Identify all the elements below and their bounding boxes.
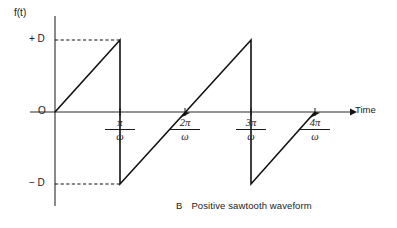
negative-amplitude-label: − D bbox=[29, 178, 45, 188]
tick-label-denominator: ω bbox=[170, 130, 200, 143]
origin-label: O bbox=[38, 106, 46, 116]
y-axis-label: f(t) bbox=[14, 8, 26, 18]
figure-caption: BPositive sawtooth waveform bbox=[176, 200, 312, 211]
tick-label-pi-over-omega: π ω bbox=[105, 117, 135, 143]
tick-label-3pi-over-omega: 3π ω bbox=[236, 117, 266, 143]
tick-label-2pi-over-omega: 2π ω bbox=[170, 117, 200, 143]
x-axis-label: Time bbox=[355, 105, 376, 115]
waveform-plot bbox=[0, 0, 397, 228]
tick-label-denominator: ω bbox=[236, 130, 266, 143]
positive-amplitude-label: + D bbox=[29, 34, 45, 44]
tick-label-numerator: π bbox=[105, 117, 135, 130]
figure-caption-tag: B bbox=[176, 200, 182, 211]
tick-label-numerator: 4π bbox=[300, 117, 330, 130]
figure-caption-text: Positive sawtooth waveform bbox=[191, 200, 311, 211]
tick-label-denominator: ω bbox=[300, 130, 330, 143]
tick-label-denominator: ω bbox=[105, 130, 135, 143]
tick-label-numerator: 2π bbox=[170, 117, 200, 130]
waveform-figure: f(t) + D O − D Time π ω 2π ω 3π ω 4π ω B… bbox=[0, 0, 397, 228]
tick-label-numerator: 3π bbox=[236, 117, 266, 130]
tick-label-4pi-over-omega: 4π ω bbox=[300, 117, 330, 143]
